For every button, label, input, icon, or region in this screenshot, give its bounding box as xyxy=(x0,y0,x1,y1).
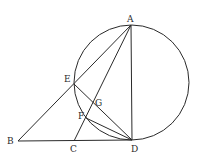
geometry-diagram: ABCDEFG xyxy=(0,0,198,157)
segment-bd xyxy=(18,140,132,141)
point-label-c: C xyxy=(70,144,77,154)
segment-fd xyxy=(86,118,132,140)
point-label-d: D xyxy=(131,144,138,154)
segments xyxy=(18,25,132,141)
point-labels: ABCDEFG xyxy=(7,14,138,154)
segment-ac xyxy=(74,25,131,141)
point-label-e: E xyxy=(64,74,71,84)
diagram-canvas: ABCDEFG xyxy=(0,0,198,157)
point-label-f: F xyxy=(78,111,84,121)
segment-ba xyxy=(18,25,131,141)
segment-ad xyxy=(131,25,132,140)
point-label-b: B xyxy=(7,136,14,146)
point-label-g: G xyxy=(95,98,102,108)
point-label-a: A xyxy=(126,14,134,24)
